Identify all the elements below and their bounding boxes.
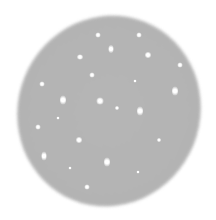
bright-spot (85, 185, 90, 190)
bright-spot (134, 80, 137, 83)
bright-spot (42, 152, 47, 161)
bright-spot (90, 73, 95, 78)
bright-spot (57, 117, 60, 120)
disk-texture (0, 0, 216, 220)
bright-spot (157, 138, 161, 142)
bright-spot (137, 171, 140, 174)
bright-spot (77, 55, 83, 60)
bright-spot (69, 167, 72, 170)
bright-spot (60, 96, 66, 105)
bright-spot (137, 107, 143, 116)
bright-spot (40, 82, 45, 87)
bright-spot (96, 33, 101, 38)
bright-spot (172, 87, 178, 96)
bright-spot (115, 106, 119, 110)
bright-spot (104, 158, 110, 167)
bright-spot (145, 52, 151, 58)
image-canvas (0, 0, 216, 220)
bright-spot (109, 45, 114, 53)
bright-spot (76, 137, 82, 143)
bright-spot (178, 63, 183, 68)
bright-spot (137, 33, 142, 38)
bright-spot (97, 98, 104, 105)
bright-spot (36, 125, 41, 130)
